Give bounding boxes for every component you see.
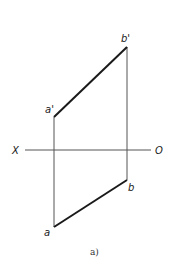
top-view-line-ab — [54, 180, 127, 227]
label-x: X — [11, 145, 20, 156]
label-b: b — [128, 182, 134, 193]
label-a-prime: a' — [45, 104, 54, 115]
label-a: a — [44, 227, 50, 238]
projection-diagram: b' a' X O b a a) — [0, 0, 171, 269]
label-b-prime: b' — [121, 33, 130, 44]
figure-caption: a) — [90, 247, 99, 257]
front-view-line-ab-prime — [54, 47, 127, 117]
label-o: O — [155, 145, 163, 156]
